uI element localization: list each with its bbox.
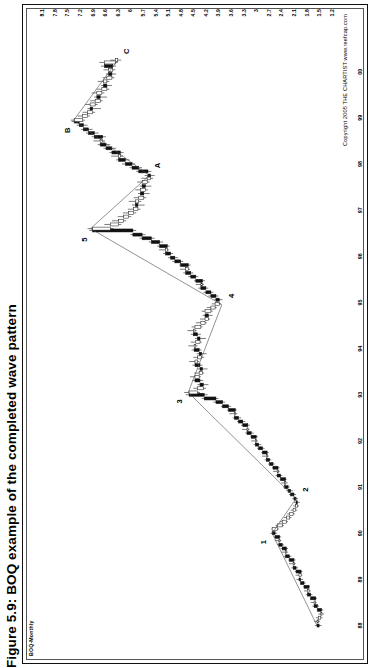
figure-page: Figure 5.9: BOQ example of the completed… — [0, 0, 372, 668]
price-bar — [300, 582, 306, 585]
price-bar — [190, 375, 201, 378]
price-bar — [291, 566, 298, 569]
price-bar — [172, 260, 183, 263]
y-axis-tick: 7.8 — [52, 9, 58, 16]
y-axis-tick: 6.6 — [102, 9, 108, 16]
price-bar — [157, 245, 170, 248]
price-bar — [135, 188, 148, 191]
price-bar — [98, 80, 110, 83]
x-axis-tick: 95 — [357, 299, 363, 305]
price-bar — [129, 200, 142, 203]
price-bar — [134, 196, 147, 199]
price-bar — [272, 466, 280, 469]
price-bar — [207, 306, 217, 309]
price-bar — [212, 302, 221, 305]
price-bar — [276, 474, 283, 477]
price-bar — [229, 412, 237, 415]
price-bar — [317, 608, 324, 611]
price-bar — [138, 192, 150, 195]
price-bar — [261, 451, 269, 454]
price-bar — [193, 356, 204, 359]
price-bar — [104, 223, 121, 226]
y-axis-tick: 1.2 — [329, 9, 335, 16]
y-axis-tick: 6.9 — [90, 9, 96, 16]
price-bar — [168, 256, 178, 259]
price-bar — [197, 383, 208, 386]
price-bar — [198, 287, 208, 290]
price-bar — [128, 208, 141, 211]
price-bar — [92, 135, 106, 138]
price-bar — [189, 360, 199, 363]
price-bar — [213, 401, 225, 404]
price-bar — [237, 420, 245, 423]
price-bar — [196, 283, 204, 286]
price-bar — [250, 435, 258, 438]
price-bar — [281, 481, 287, 484]
price-bar — [132, 204, 145, 207]
y-axis-tick: 3.9 — [215, 9, 221, 16]
price-bar — [97, 88, 110, 91]
y-axis-tick: 7.2 — [77, 9, 83, 16]
x-axis-tick: 88 — [357, 623, 363, 629]
y-axis-tick: 4.5 — [190, 9, 196, 16]
price-bar — [289, 562, 296, 565]
price-bar — [242, 428, 250, 431]
price-bar — [192, 364, 202, 367]
price-bar — [268, 463, 275, 466]
price-bar — [254, 443, 262, 446]
price-bar — [188, 344, 197, 347]
price-bar — [130, 233, 145, 236]
price-bar — [85, 103, 98, 106]
price-bar — [194, 279, 205, 282]
price-bar — [221, 405, 231, 408]
price-bar — [188, 275, 198, 278]
price-bar — [184, 391, 200, 394]
price-bar — [179, 264, 191, 267]
x-axis-tick: 96 — [357, 253, 363, 259]
y-axis-tick: 5.1 — [165, 9, 171, 16]
x-axis-tick: 91 — [357, 484, 363, 490]
price-bar — [104, 68, 116, 71]
y-axis-tick: 3 — [253, 9, 259, 12]
price-bar — [78, 115, 91, 118]
x-axis-tick: 90 — [357, 530, 363, 536]
price-bar — [191, 333, 201, 336]
y-axis-tick: 3.6 — [228, 9, 234, 16]
price-bar — [159, 248, 169, 251]
price-bar — [203, 291, 213, 294]
price-bar — [233, 416, 241, 419]
chart-plot-area: BOQ-Monthly Copyright 2005 THE CHARTIST … — [26, 8, 364, 660]
figure-caption: Figure 5.9: BOQ example of the completed… — [0, 0, 22, 668]
price-bar — [287, 512, 295, 515]
y-axis-tick: 2.4 — [278, 9, 284, 16]
price-bar — [274, 535, 282, 538]
rotated-plot-container: BOQ-Monthly Copyright 2005 THE CHARTIST … — [26, 8, 364, 660]
price-bar — [104, 147, 117, 150]
y-axis-tick: 2.7 — [266, 9, 272, 16]
price-bar — [183, 271, 193, 274]
y-axis-tick: 3.3 — [241, 9, 247, 16]
price-bar — [310, 597, 317, 600]
price-bar — [197, 352, 207, 355]
x-axis-tick: 99 — [357, 115, 363, 121]
price-bar — [315, 624, 322, 627]
price-bar — [280, 478, 287, 481]
price-bar — [312, 605, 319, 608]
price-bar — [101, 84, 112, 87]
price-bar — [202, 397, 219, 400]
price-bar — [251, 439, 258, 442]
y-axis-tick: 6.3 — [115, 9, 121, 16]
price-bar — [196, 321, 207, 324]
price-bar — [192, 379, 203, 382]
y-axis-tick: 4.2 — [203, 9, 209, 16]
price-bar — [306, 593, 313, 596]
price-bar — [262, 455, 269, 458]
price-bar — [193, 387, 206, 390]
y-axis-tick: 6 — [127, 9, 133, 12]
wave-label-1: 1 — [259, 540, 268, 544]
y-axis-tick: 1.5 — [316, 9, 322, 16]
price-bar — [180, 268, 190, 271]
price-bar — [187, 329, 196, 332]
price-bar — [214, 298, 222, 301]
price-bar — [265, 458, 272, 461]
